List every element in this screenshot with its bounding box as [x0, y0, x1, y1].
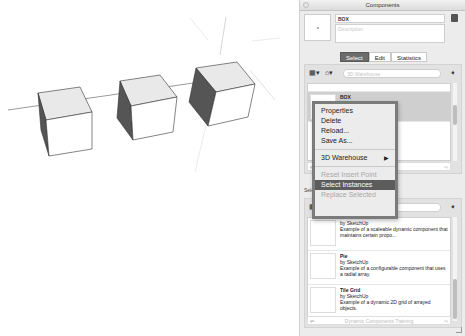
panel-title: Components — [365, 2, 399, 8]
submenu-arrow-icon: ▶ — [384, 153, 389, 163]
menu-item-reset-insert-point: Reset Insert Point — [315, 170, 395, 180]
footer-link[interactable]: Dynamic Components Training — [345, 318, 413, 324]
description-field[interactable]: Description — [335, 24, 445, 43]
context-menu: Properties Delete Reload... Save As... 3… — [312, 101, 398, 219]
menu-item-properties[interactable]: Properties — [315, 106, 395, 116]
component-name-field[interactable]: BOX — [335, 14, 445, 23]
menu-item-select-instances[interactable]: Select Instances — [315, 180, 395, 190]
list-item-pie[interactable]: Pieby SketchUpExample of a configurable … — [308, 251, 450, 285]
menu-separator — [315, 149, 395, 150]
panel-titlebar[interactable]: Components — [300, 0, 465, 11]
browser-footer: ⇦ Dynamic Components Training ⇨ — [307, 316, 451, 325]
tab-statistics[interactable]: Statistics — [391, 52, 427, 62]
item-description: Example of a configurable component that… — [340, 265, 446, 277]
item-description: Example of a scaleable dynamic component… — [340, 226, 448, 238]
list-item-tile-grid[interactable]: Tile Gridby SketchUpExample of a dynamic… — [308, 285, 450, 319]
resize-handle[interactable] — [456, 327, 462, 333]
footer-right-icon[interactable]: ⇨ — [444, 317, 448, 326]
item-thumbnail — [310, 287, 336, 313]
list-item[interactable] — [308, 84, 450, 92]
list-item[interactable]: by SketchUpExample of a scaleable dynami… — [308, 218, 450, 251]
item-thumbnail — [310, 220, 336, 246]
menu-item-3d-warehouse[interactable]: 3D Warehouse▶ — [315, 153, 395, 163]
menu-separator — [315, 166, 395, 167]
footer-right-icon[interactable]: ⇨ — [444, 163, 448, 172]
component-info: BOX Description — [304, 14, 462, 50]
item-description: Example of a dynamic 2D grid of arrayed … — [340, 299, 431, 311]
model-viewport[interactable] — [0, 0, 300, 336]
view-options-icon[interactable]: ▦▾ — [309, 65, 320, 81]
search-input[interactable]: 3D Warehouse — [343, 69, 441, 78]
navigate-icon[interactable]: ➧ — [450, 199, 456, 215]
component-list: by SketchUpExample of a scaleable dynami… — [307, 217, 451, 321]
item-thumbnail — [310, 253, 336, 279]
scrollbar[interactable] — [453, 83, 457, 161]
scrollbar[interactable] — [453, 217, 457, 321]
tab-edit[interactable]: Edit — [369, 52, 391, 62]
panel-tabs: Select Edit Statistics — [340, 52, 427, 62]
footer-left-icon[interactable]: ⇦ — [310, 317, 314, 326]
details-menu-icon[interactable] — [451, 14, 458, 22]
navigate-icon[interactable]: ➧ — [450, 65, 456, 81]
browser-toolbar: ▦▾ ⌂▾ 3D Warehouse ➧ — [305, 65, 461, 81]
close-icon[interactable] — [303, 2, 309, 8]
menu-item-label: 3D Warehouse — [321, 154, 367, 161]
component-thumbnail — [304, 14, 331, 41]
menu-item-delete[interactable]: Delete — [315, 116, 395, 126]
home-icon[interactable]: ⌂▾ — [325, 65, 333, 81]
menu-item-save-as[interactable]: Save As... — [315, 136, 395, 146]
tab-select[interactable]: Select — [340, 52, 369, 62]
cubes-drawing — [0, 0, 300, 336]
menu-item-replace-selected: Replace Selected — [315, 190, 395, 200]
menu-item-reload[interactable]: Reload... — [315, 126, 395, 136]
